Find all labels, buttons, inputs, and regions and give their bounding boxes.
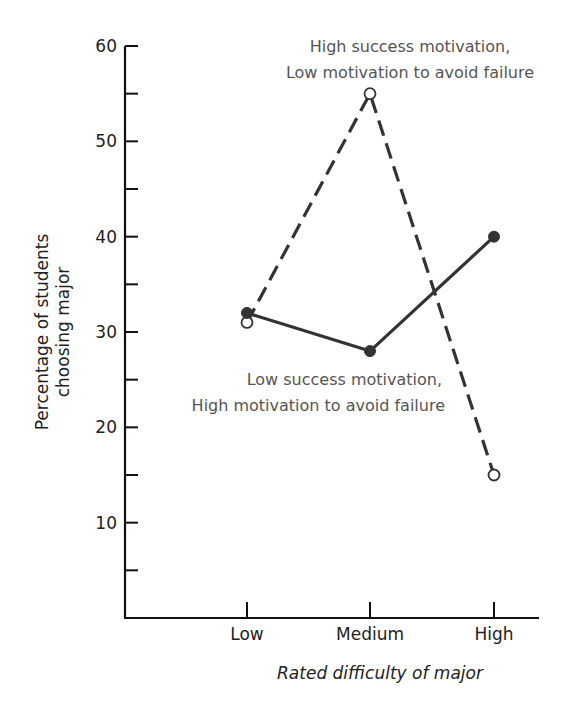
y-tick-label: 20: [95, 417, 117, 437]
y-tick-label: 50: [95, 131, 117, 151]
filled-circle-marker: [489, 231, 500, 242]
series-group: [242, 88, 500, 480]
dashed-series-line: [247, 94, 494, 475]
x-tick-label: Medium: [336, 624, 404, 644]
axes: [124, 46, 539, 619]
labels-group: 102030405060LowMediumHighRated difficult…: [32, 36, 534, 683]
filled-circle-marker: [365, 346, 376, 357]
series-2-label-line1: Low success motivation,: [247, 370, 442, 389]
y-axis-title-line1: Percentage of students: [32, 234, 52, 431]
y-axis-title-line2: choosing major: [53, 267, 73, 398]
y-tick-label: 60: [95, 36, 117, 56]
line-chart: 102030405060LowMediumHighRated difficult…: [0, 0, 571, 704]
x-axis-title: Rated difficulty of major: [277, 663, 484, 683]
y-tick-label: 10: [95, 513, 117, 533]
x-tick-label: High: [474, 624, 513, 644]
y-axis-title: Percentage of studentschoosing major: [32, 234, 73, 431]
series-2-label-line2: High motivation to avoid failure: [192, 396, 445, 415]
open-circle-marker: [489, 470, 500, 481]
y-tick-label: 30: [95, 322, 117, 342]
x-tick-label: Low: [230, 624, 264, 644]
y-tick-label: 40: [95, 227, 117, 247]
series-1-label-line1: High success motivation,: [310, 37, 511, 56]
open-circle-marker: [365, 88, 376, 99]
series-1-label-line2: Low motivation to avoid failure: [286, 63, 534, 82]
filled-circle-marker: [242, 307, 253, 318]
